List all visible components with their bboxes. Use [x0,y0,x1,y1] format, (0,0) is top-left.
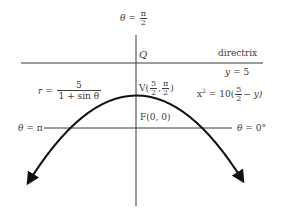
equation-tail: − y) [243,89,262,99]
fraction-r: 52 [150,80,157,97]
equals-sign: = [245,123,253,133]
numerator: 5 [75,81,83,90]
fraction-theta: π2 [162,80,169,97]
label-directrix-equation: y = 5 [225,68,249,77]
equals-sign: = [209,89,217,99]
value: 5 [243,67,249,77]
denominator: 2 [140,18,147,27]
label-theta-pi-over-2: θ = π 2 [120,10,148,27]
label-directrix: directrix [218,49,257,58]
coefficient: 10( [219,89,234,99]
polar-parabola-diagram: θ = π 2 Q directrix y = 5 r = 5 1 + sin … [0,0,283,222]
denominator: 2 [235,94,242,103]
theta-symbol: θ [237,123,242,133]
theta-symbol: θ [120,13,125,23]
label-theta-pi: θ = π [18,124,43,133]
diagram-canvas [0,0,283,222]
denominator: 2 [162,88,169,97]
numerator: π [162,80,169,88]
numerator: 5 [150,80,157,88]
equals-sign: = [45,86,53,96]
label-rectangular-equation: x2 = 10(52− y) [197,86,262,103]
numerator: π [140,10,147,18]
theta-symbol: θ [18,123,23,133]
paren-close: ) [170,83,174,93]
fraction-polar: 5 1 + sin θ [57,81,102,101]
equals-sign: = [233,67,241,77]
equals-sign: = [26,123,34,133]
denominator: 2 [150,88,157,97]
value: 0° [256,123,266,133]
label-theta-zero: θ = 0° [237,124,266,133]
paren-open: ( [146,83,150,93]
label-polar-equation: r = 5 1 + sin θ [38,81,102,101]
comma: , [158,83,161,93]
value: π [37,123,43,133]
label-vertex: V(52,π2) [139,80,174,97]
denominator: 1 + sin θ [57,90,102,101]
numerator: 5 [235,86,242,94]
label-point-q: Q [139,50,147,60]
equals-sign: = [128,13,136,23]
exponent: 2 [202,87,206,94]
y-symbol: y [225,67,230,77]
fraction-five-halves: 52 [235,86,242,103]
r-symbol: r [38,86,42,96]
label-focus: F(0, 0) [140,113,170,122]
fraction-pi-over-2: π 2 [140,10,147,27]
